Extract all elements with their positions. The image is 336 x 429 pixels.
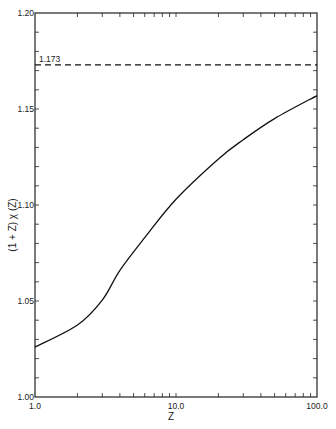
svg-text:100.0: 100.0 [306, 401, 328, 411]
y-axis-title: (1 + Z) χ (Z) [7, 198, 18, 251]
x-axis-title: Z [168, 411, 174, 422]
line-chart: 1.001.051.101.151.201.010.0100.0 1.173 Z… [0, 0, 336, 429]
svg-text:1.05: 1.05 [17, 296, 34, 306]
data-series [35, 65, 317, 347]
svg-text:1.15: 1.15 [17, 104, 34, 114]
svg-text:1.0: 1.0 [29, 401, 41, 411]
svg-text:1.10: 1.10 [17, 200, 34, 210]
curve-line [35, 96, 317, 348]
plot-frame [35, 13, 317, 397]
axis-ticks [35, 13, 317, 397]
asymptote-annotation: 1.173 [39, 54, 61, 64]
svg-text:10.0: 10.0 [168, 401, 185, 411]
svg-text:1.20: 1.20 [17, 8, 34, 18]
tick-labels: 1.001.051.101.151.201.010.0100.0 [17, 8, 327, 411]
